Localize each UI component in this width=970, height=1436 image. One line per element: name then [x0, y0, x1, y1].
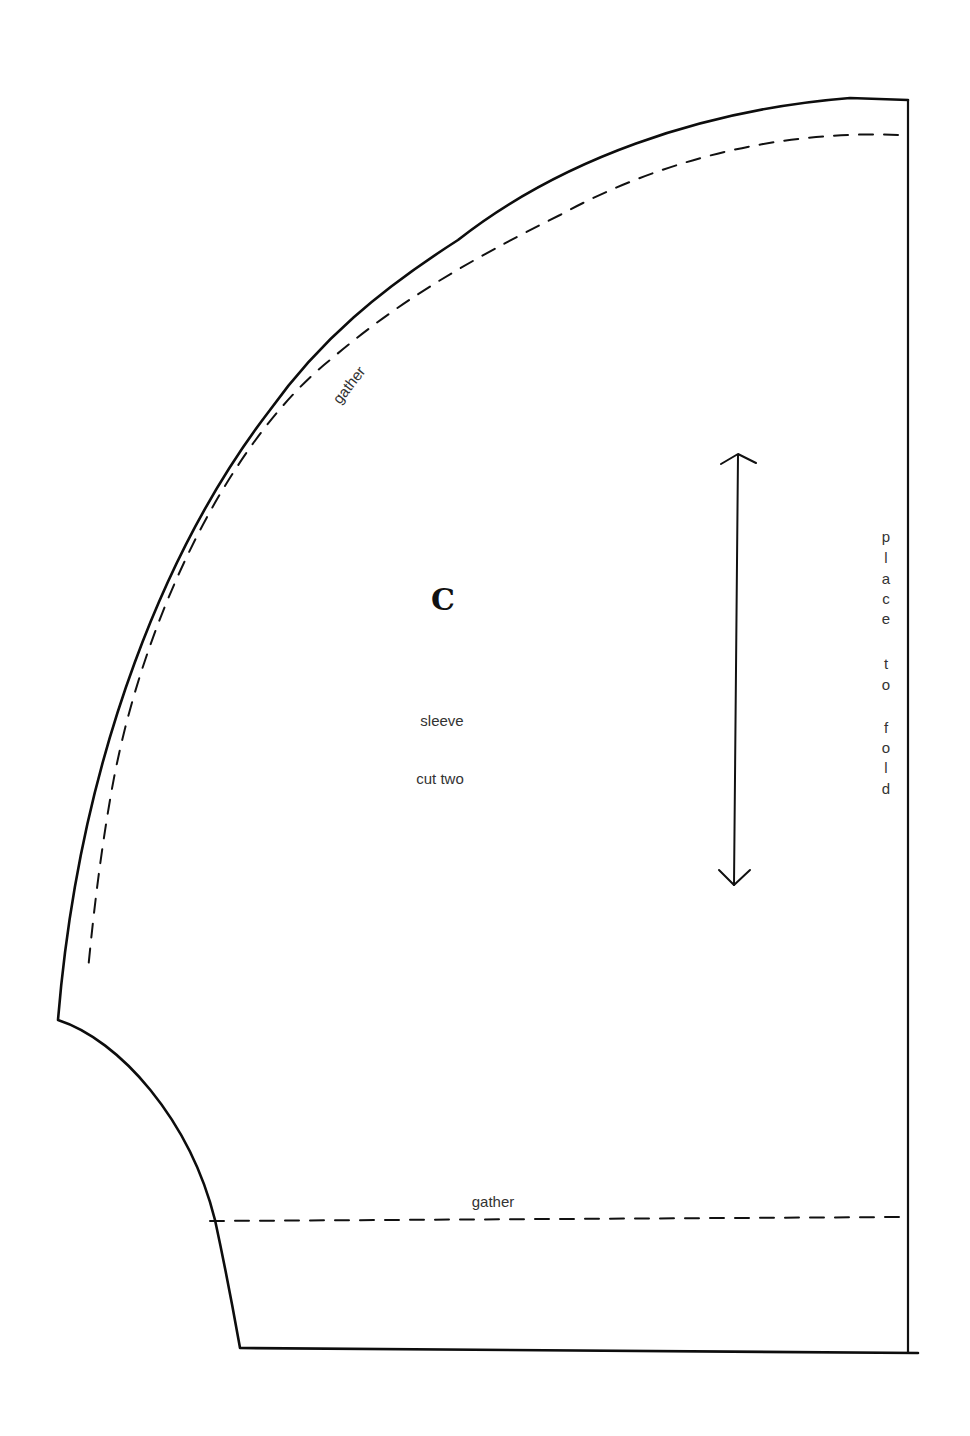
- fold-letter: c: [882, 590, 890, 607]
- grainline-arrow: [719, 454, 756, 885]
- fold-letter: o: [882, 676, 890, 693]
- fold-letter: l: [884, 549, 887, 566]
- fold-letter: t: [884, 655, 889, 672]
- cutting-line: [58, 98, 918, 1353]
- sleeve-pattern-piece: gather C sleeve cut two gather p l a c e…: [0, 0, 970, 1436]
- cut-instruction: cut two: [416, 770, 464, 787]
- fold-letter: e: [882, 610, 890, 627]
- fold-letter: a: [882, 570, 891, 587]
- fold-letter: p: [882, 528, 890, 545]
- gather-stitch-line-top: [88, 134, 898, 970]
- fold-letter: l: [884, 759, 887, 776]
- gather-label-bottom: gather: [472, 1193, 515, 1210]
- grainline-shaft: [734, 455, 738, 885]
- piece-letter: C: [431, 582, 455, 617]
- piece-name: sleeve: [420, 712, 463, 729]
- fold-letter: f: [884, 719, 889, 736]
- gather-stitch-line-bottom: [210, 1217, 900, 1221]
- fold-letter: d: [882, 780, 890, 797]
- fold-instruction: p l a c e t o f o l d: [882, 528, 891, 797]
- fold-letter: o: [882, 739, 890, 756]
- gather-label-top: gather: [329, 363, 369, 407]
